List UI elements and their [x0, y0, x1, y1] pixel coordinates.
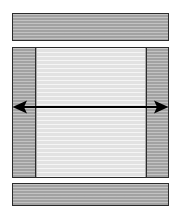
center-light-cavity	[37, 48, 145, 177]
top-horizontal-member	[12, 13, 169, 41]
diagram-canvas	[0, 0, 181, 214]
right-hatched-column	[146, 48, 168, 177]
left-hatched-column	[13, 48, 36, 177]
main-body	[12, 47, 169, 178]
bottom-horizontal-member	[12, 183, 169, 206]
